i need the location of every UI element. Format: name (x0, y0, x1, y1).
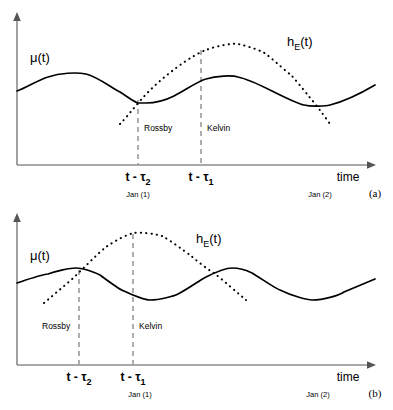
curve-mu-a (17, 73, 375, 106)
y-axis-arrowhead (13, 213, 21, 222)
month-label-jan2-a: Jan (2) (308, 190, 332, 199)
label-kelvin-b: Kelvin (139, 321, 162, 331)
panel-a-canvas: μ(t) hE(t) Rossby Kelvin t - τ2 t - τ1 J… (0, 0, 393, 205)
x-axis-arrowhead (367, 361, 376, 369)
tick-label-tau1-b: t - τ1 (120, 370, 145, 387)
panel-a-guides (138, 50, 201, 165)
panel-label-a: (a) (369, 187, 382, 200)
x-axis-label-a: time (337, 170, 360, 184)
label-mu-b: μ(t) (30, 248, 50, 263)
panel-a-labels: μ(t) hE(t) Rossby Kelvin t - τ2 t - τ1 J… (30, 34, 381, 200)
month-label-jan1-b: Jan (1) (128, 390, 152, 399)
label-mu-a: μ(t) (30, 50, 50, 65)
label-kelvin-a: Kelvin (207, 123, 230, 133)
panel-a-axes (13, 12, 376, 169)
tick-label-tau1-a: t - τ1 (188, 170, 213, 187)
panel-b-guides (79, 234, 133, 365)
label-he-a: hE(t) (287, 34, 313, 52)
panel-a-curves (17, 44, 375, 124)
x-axis-arrowhead (367, 161, 376, 169)
month-label-jan1-a: Jan (1) (126, 190, 150, 199)
panel-b-axes (13, 213, 376, 369)
tick-label-tau2-b: t - τ2 (66, 370, 91, 387)
label-rossby-b: Rossby (42, 321, 71, 331)
figure-container: μ(t) hE(t) Rossby Kelvin t - τ2 t - τ1 J… (0, 0, 393, 410)
y-axis-arrowhead (13, 12, 21, 21)
tick-label-tau2-a: t - τ2 (125, 170, 150, 187)
panel-b-canvas: μ(t) hE(t) Rossby Kelvin t - τ2 t - τ1 J… (0, 205, 393, 410)
curve-mu-b (17, 268, 375, 300)
label-he-b: hE(t) (196, 231, 222, 249)
panel-b: μ(t) hE(t) Rossby Kelvin t - τ2 t - τ1 J… (0, 205, 393, 410)
curve-he-a (120, 44, 330, 124)
month-label-jan2-b: Jan (2) (306, 390, 330, 399)
label-rossby-a: Rossby (144, 123, 173, 133)
panel-a: μ(t) hE(t) Rossby Kelvin t - τ2 t - τ1 J… (0, 0, 393, 205)
panel-b-labels: μ(t) hE(t) Rossby Kelvin t - τ2 t - τ1 J… (30, 231, 382, 400)
panel-label-b: (b) (369, 387, 382, 400)
x-axis-label-b: time (337, 370, 360, 384)
